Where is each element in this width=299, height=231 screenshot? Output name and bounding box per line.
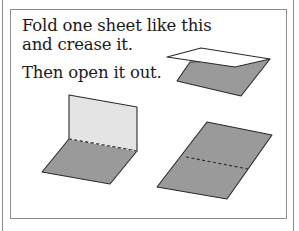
opened-sheet-upright-figure: [42, 95, 137, 184]
fold-diagrams: [0, 0, 299, 231]
opened-sheet-flat-figure: [157, 122, 272, 199]
folded-sheet-figure: [167, 48, 270, 96]
